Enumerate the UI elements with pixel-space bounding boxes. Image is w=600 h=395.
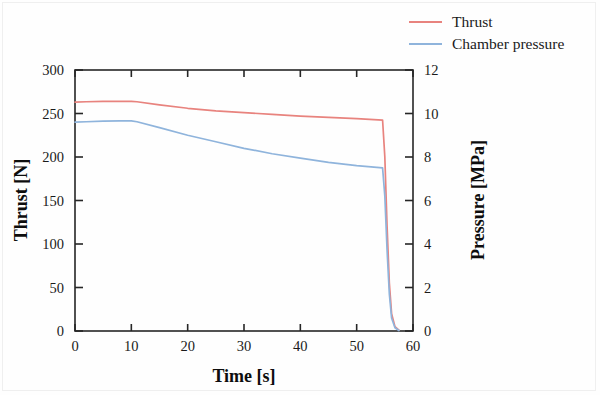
y-left-tick-label: 300: [42, 62, 64, 78]
y-left-tick-label: 250: [42, 106, 64, 122]
y-left-tick-label: 0: [57, 323, 64, 339]
data-series-group: [75, 101, 399, 330]
legend-label-thrust: Thrust: [452, 13, 493, 30]
x-axis-title: Time [s]: [212, 366, 275, 386]
x-tick-label: 50: [349, 338, 364, 354]
y-right-axis-title: Pressure [MPa]: [468, 140, 488, 260]
thrust-pressure-line-chart: 0102030405060 050100150200250300 0246810…: [0, 0, 600, 395]
x-tick-label: 0: [71, 338, 78, 354]
x-tick-label: 60: [406, 338, 421, 354]
y-right-tick-label: 4: [424, 236, 432, 252]
y-right-tick-label: 12: [424, 62, 439, 78]
chart-legend: Thrust Chamber pressure: [409, 13, 564, 52]
y-left-tick-label: 150: [42, 193, 64, 209]
x-tick-label: 30: [237, 338, 252, 354]
y-right-tick-label: 8: [424, 149, 431, 165]
y-right-tick-label: 2: [424, 280, 431, 296]
y-right-axis-ticks: 024681012: [405, 62, 439, 339]
x-tick-label: 10: [124, 338, 139, 354]
y-left-axis-ticks: 050100150200250300: [42, 62, 83, 339]
chart-figure: 0102030405060 050100150200250300 0246810…: [0, 0, 600, 395]
y-right-tick-label: 6: [424, 193, 431, 209]
x-tick-label: 40: [293, 338, 308, 354]
y-left-tick-label: 50: [50, 280, 65, 296]
y-left-axis-title: Thrust [N]: [11, 159, 31, 242]
legend-label-chamber-pressure: Chamber pressure: [452, 35, 564, 52]
x-tick-label: 20: [180, 338, 195, 354]
y-right-tick-label: 0: [424, 323, 431, 339]
y-right-tick-label: 10: [424, 106, 439, 122]
series-line-thrust: [75, 101, 399, 330]
series-line-chamber-pressure: [75, 121, 399, 331]
plot-area-rect: [75, 70, 413, 331]
y-left-tick-label: 100: [42, 236, 64, 252]
plot-frame: [75, 70, 413, 331]
y-left-tick-label: 200: [42, 149, 64, 165]
